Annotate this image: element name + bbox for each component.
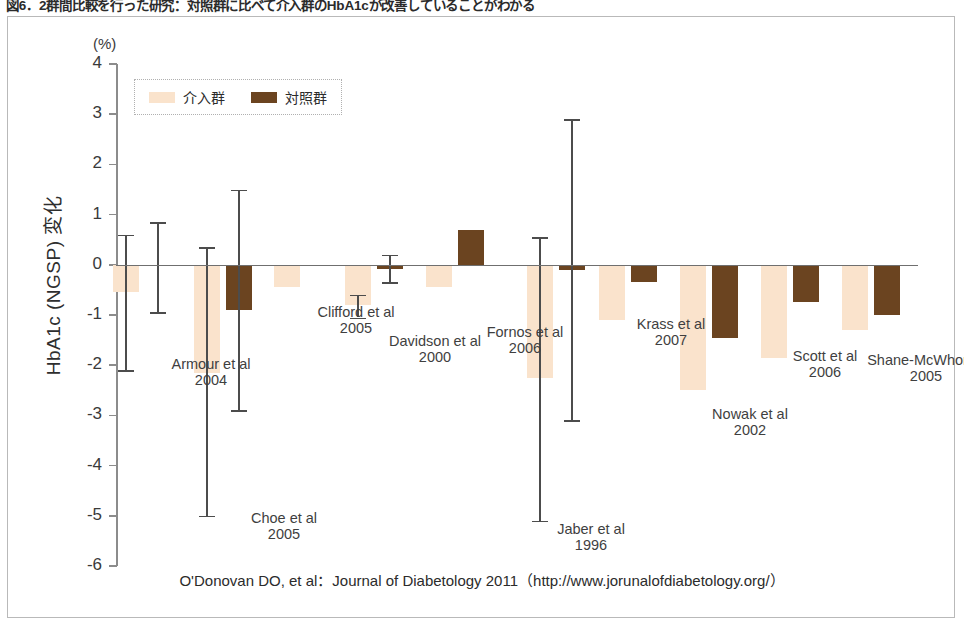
error-bar-intervention xyxy=(125,235,127,371)
bar-control xyxy=(631,265,657,283)
error-bar-control xyxy=(157,222,159,312)
study-label-name: Armour et al xyxy=(126,357,296,373)
study-label: Choe et al2005 xyxy=(204,511,364,542)
error-bar-control-upper-cap xyxy=(231,190,247,192)
error-bar-control-upper-cap xyxy=(150,222,166,224)
legend-item-intervention: 介入群 xyxy=(149,87,225,107)
study-label-year: 2002 xyxy=(665,423,835,439)
study-label-name: Shane-McWhorter xyxy=(816,353,964,369)
y-tick-label: -4 xyxy=(58,455,102,475)
bar-intervention xyxy=(274,265,300,288)
error-bar-control-upper-cap xyxy=(564,119,580,121)
y-tick-mark xyxy=(109,515,117,517)
study-label: Nowak et al2002 xyxy=(665,407,835,438)
y-tick-label: 3 xyxy=(58,103,102,123)
bar-intervention xyxy=(842,265,868,330)
study-label: Armour et al2004 xyxy=(126,357,296,388)
study-label-name: Nowak et al xyxy=(665,407,835,423)
y-axis-title: HbA1c (NGSP) 変化 xyxy=(38,151,65,421)
error-bar-intervention xyxy=(539,237,541,521)
legend-swatch-control xyxy=(251,92,277,103)
figure-root: 図6．2群間比較を行った研究：対照群に比べて介入群のHbA1cが改善していること… xyxy=(0,0,964,633)
y-tick-mark xyxy=(109,63,117,65)
study-label-name: Choe et al xyxy=(204,511,364,527)
error-bar-control xyxy=(571,119,573,420)
y-tick-mark xyxy=(109,565,117,567)
error-bar-control-upper-cap xyxy=(382,255,398,257)
y-tick-label: -2 xyxy=(58,354,102,374)
y-tick-label: 1 xyxy=(58,204,102,224)
y-tick-label: 2 xyxy=(58,153,102,173)
study-label: Shane-McWhorter2005 xyxy=(816,353,964,384)
study-label-year: 2007 xyxy=(596,333,746,349)
bar-intervention xyxy=(761,265,787,358)
y-tick-mark xyxy=(109,164,117,166)
y-tick-mark xyxy=(109,214,117,216)
chart-plot-area: (%) HbA1c (NGSP) 変化 43210-1-2-3-4-5-6 Ar… xyxy=(8,17,956,619)
legend-swatch-intervention xyxy=(149,92,175,103)
bar-intervention xyxy=(599,265,625,320)
error-bar-control xyxy=(389,255,391,283)
study-label-name: Clifford et al xyxy=(276,305,436,321)
zero-baseline xyxy=(116,265,918,267)
figure-frame: (%) HbA1c (NGSP) 変化 43210-1-2-3-4-5-6 Ar… xyxy=(7,16,955,618)
study-label-name: Krass et al xyxy=(596,317,746,333)
study-label: Fornos et al2006 xyxy=(450,325,600,356)
error-bar-intervention-upper-cap xyxy=(532,237,548,239)
legend-item-control: 対照群 xyxy=(251,87,327,107)
error-bar-control-lower-cap xyxy=(382,282,398,284)
y-tick-mark xyxy=(109,465,117,467)
y-tick-mark xyxy=(109,364,117,366)
study-label-name: Fornos et al xyxy=(450,325,600,341)
study-label-year: 2006 xyxy=(450,341,600,357)
legend-label-control: 対照群 xyxy=(285,87,327,107)
y-tick-mark xyxy=(109,113,117,115)
study-label: Clifford et al2005 xyxy=(276,305,436,336)
bar-intervention xyxy=(426,265,452,288)
bar-control xyxy=(458,230,484,265)
y-tick-mark xyxy=(109,415,117,417)
study-label-name: Jaber et al xyxy=(516,522,666,538)
study-label: Jaber et al1996 xyxy=(516,522,666,553)
error-bar-intervention-upper-cap xyxy=(199,247,215,249)
error-bar-control-lower-cap xyxy=(150,312,166,314)
y-tick-label: -1 xyxy=(58,304,102,324)
study-label-year: 1996 xyxy=(516,538,666,554)
error-bar-intervention-upper-cap xyxy=(118,235,134,237)
y-tick-label: -5 xyxy=(58,505,102,525)
legend-label-intervention: 介入群 xyxy=(183,87,225,107)
study-label-year: 2005 xyxy=(204,527,364,543)
y-tick-label: 0 xyxy=(58,254,102,274)
y-tick-label: -3 xyxy=(58,404,102,424)
bar-control xyxy=(793,265,819,303)
error-bar-intervention-upper-cap xyxy=(350,295,366,297)
study-label-year: 2005 xyxy=(816,369,964,385)
y-tick-label: 4 xyxy=(58,53,102,73)
error-bar-control-lower-cap xyxy=(564,420,580,422)
source-citation: O'Donovan DO, et al：Journal of Diabetolo… xyxy=(8,569,956,590)
error-bar-control-lower-cap xyxy=(231,410,247,412)
y-tick-mark xyxy=(109,314,117,316)
chart-legend: 介入群 対照群 xyxy=(134,79,342,115)
bar-control xyxy=(874,265,900,315)
study-label-year: 2004 xyxy=(126,373,296,389)
y-axis-unit-label: (%) xyxy=(93,35,116,52)
study-label: Krass et al2007 xyxy=(596,317,746,348)
figure-caption: 図6．2群間比較を行った研究：対照群に比べて介入群のHbA1cが改善していること… xyxy=(6,0,946,14)
